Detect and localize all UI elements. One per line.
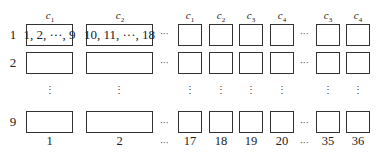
cell-r2-c2 bbox=[86, 52, 153, 74]
col-header-17: c1 bbox=[178, 9, 202, 24]
cell-r9-c19 bbox=[239, 111, 263, 133]
row1-hellipsis-2: ··· bbox=[296, 28, 312, 39]
col-number-18: 18 bbox=[207, 134, 235, 149]
cell-r9-c36 bbox=[346, 111, 370, 133]
row2-hellipsis-1: ··· bbox=[156, 57, 172, 68]
cell-r9-c20 bbox=[270, 111, 294, 133]
row-label-2: 2 bbox=[6, 55, 20, 71]
vellipsis-c35: ⋮ bbox=[323, 88, 333, 92]
cell-r2-c36 bbox=[346, 52, 370, 74]
col-number-19: 19 bbox=[237, 134, 265, 149]
cell-r9-c1 bbox=[26, 111, 73, 133]
col-header-20: c4 bbox=[270, 9, 294, 24]
row9-hellipsis-1: ··· bbox=[156, 117, 172, 128]
cell-r1-c18 bbox=[209, 24, 233, 46]
cell-r2-c19 bbox=[239, 52, 263, 74]
row2-hellipsis-2: ··· bbox=[296, 57, 312, 68]
col-header-36: c4 bbox=[346, 9, 370, 24]
col-header-2: c2 bbox=[108, 9, 132, 24]
vellipsis-c20: ⋮ bbox=[277, 88, 287, 92]
cell-r1-c20 bbox=[270, 24, 294, 46]
vellipsis-c19: ⋮ bbox=[246, 88, 256, 92]
col-number-36: 36 bbox=[344, 134, 372, 149]
cell-r1-c1: 1, 2, ···, 9 bbox=[26, 24, 73, 46]
cell-r2-c1 bbox=[26, 52, 73, 74]
vellipsis-c17: ⋮ bbox=[185, 88, 195, 92]
vellipsis-c36: ⋮ bbox=[353, 88, 363, 92]
col-number-2: 2 bbox=[86, 134, 153, 149]
col-number-35: 35 bbox=[314, 134, 342, 149]
row9-hellipsis-2: ··· bbox=[296, 117, 312, 128]
col-number-1: 1 bbox=[26, 134, 73, 149]
cell-r9-c18 bbox=[209, 111, 233, 133]
cell-r2-c20 bbox=[270, 52, 294, 74]
bottom-hellipsis-1: ··· bbox=[156, 137, 172, 148]
col-number-20: 20 bbox=[268, 134, 296, 149]
cell-r9-c2 bbox=[86, 111, 153, 133]
cell-r1-c35 bbox=[316, 24, 340, 46]
bottom-hellipsis-2: ··· bbox=[296, 137, 312, 148]
cell-r2-c35 bbox=[316, 52, 340, 74]
col-header-35: c3 bbox=[316, 9, 340, 24]
cell-r1-c17 bbox=[178, 24, 202, 46]
vellipsis-c1: ⋮ bbox=[45, 88, 55, 92]
cell-r2-c18 bbox=[209, 52, 233, 74]
cell-r1-c19 bbox=[239, 24, 263, 46]
cell-r9-c17 bbox=[178, 111, 202, 133]
cell-r2-c17 bbox=[178, 52, 202, 74]
cell-r1-c2: 10, 11, ···, 18 bbox=[86, 24, 153, 46]
vellipsis-c18: ⋮ bbox=[216, 88, 226, 92]
cell-r9-c35 bbox=[316, 111, 340, 133]
col-number-17: 17 bbox=[176, 134, 204, 149]
vellipsis-c2: ⋮ bbox=[114, 88, 124, 92]
cell-r1-c36 bbox=[346, 24, 370, 46]
col-header-18: c2 bbox=[209, 9, 233, 24]
row-label-1: 1 bbox=[6, 27, 20, 43]
col-header-1: c1 bbox=[38, 9, 62, 24]
row1-hellipsis-1: ··· bbox=[156, 28, 172, 39]
col-header-19: c3 bbox=[239, 9, 263, 24]
row-label-9: 9 bbox=[6, 114, 20, 130]
